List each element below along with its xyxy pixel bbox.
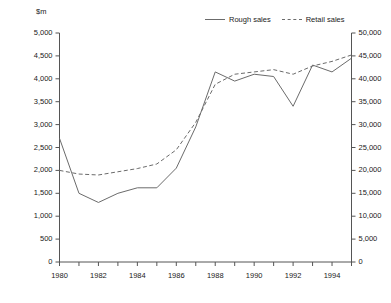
x-axis-tick-label: 1992 (273, 272, 313, 280)
x-axis-tick-label: 1988 (195, 272, 235, 280)
y2-axis-tick-label: 5,000 (359, 235, 378, 243)
y2-axis-tick-label: 30,000 (359, 121, 382, 129)
x-axis-tick-label: 1982 (78, 272, 118, 280)
x-axis-tick-label: 1990 (234, 272, 274, 280)
y2-axis-tick-label: 45,000 (359, 52, 382, 60)
y-axis-tick-label: 2,500 (0, 144, 53, 152)
y-axis-tick-label: 1,000 (0, 212, 53, 220)
y2-axis-tick-label: 50,000 (359, 29, 382, 37)
y2-axis-tick-label: 20,000 (359, 166, 382, 174)
y2-axis-tick-label: 15,000 (359, 189, 382, 197)
y2-axis-tick-label: 35,000 (359, 98, 382, 106)
x-axis-tick-label: 1994 (312, 272, 352, 280)
y-axis-tick-label: 3,000 (0, 121, 53, 129)
y-axis-tick-label: 5,000 (0, 29, 53, 37)
y-axis-tick-label: 3,500 (0, 98, 53, 106)
y-axis-tick-label: 0 (0, 258, 53, 266)
y-axis-tick-label: 4,000 (0, 75, 53, 83)
y-axis-tick-label: 1,500 (0, 189, 53, 197)
y2-axis-tick-label: 0 (359, 258, 363, 266)
y2-axis-tick-label: 10,000 (359, 212, 382, 220)
y-axis-tick-label: 500 (0, 235, 53, 243)
y-axis-tick-label: 4,500 (0, 52, 53, 60)
y-axis-tick-label: 2,000 (0, 166, 53, 174)
x-axis-tick-label: 1984 (117, 272, 157, 280)
series-line-2 (60, 55, 352, 175)
x-axis-tick-label: 1986 (156, 272, 196, 280)
y2-axis-tick-label: 40,000 (359, 75, 382, 83)
chart-container: Rough sales Retail sales $m 05001,0001,5… (0, 0, 391, 303)
chart-plot-area (0, 0, 391, 303)
y2-axis-tick-label: 25,000 (359, 144, 382, 152)
series-line-1 (60, 58, 352, 202)
x-axis-tick-label: 1980 (40, 272, 80, 280)
